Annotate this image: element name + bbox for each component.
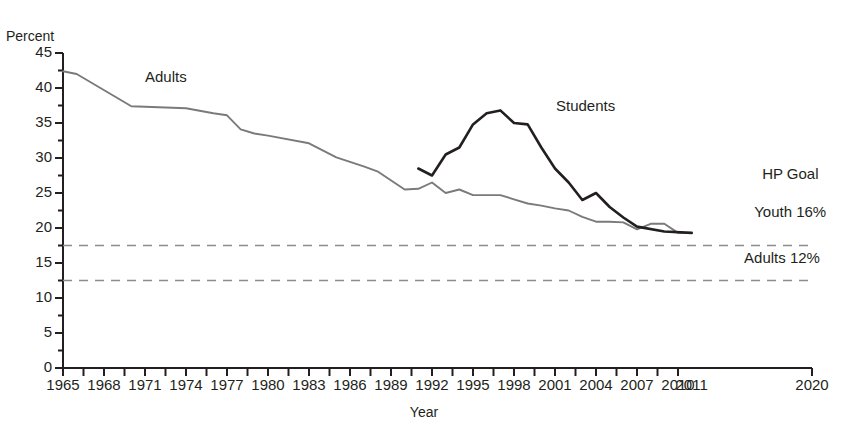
y-tick-label: 45 — [12, 43, 52, 60]
y-tick-label: 5 — [12, 323, 52, 340]
line-chart-canvas — [0, 0, 848, 432]
x-tick-label: 2011 — [668, 376, 716, 393]
y-tick-label: 10 — [12, 288, 52, 305]
y-tick-label: 35 — [12, 113, 52, 130]
x-axis-title: Year — [0, 404, 848, 420]
series-label-students: Students — [556, 97, 615, 114]
y-tick-label: 30 — [12, 148, 52, 165]
y-tick-label: 15 — [12, 253, 52, 270]
y-tick-label: 0 — [12, 358, 52, 375]
hp-goal-line-1: HP Goal — [762, 165, 818, 182]
annotation-adults-goal: Adults 12% — [722, 248, 842, 267]
y-tick-label: 40 — [12, 78, 52, 95]
chart-container: Percent Year Adults Students HP Goal You… — [0, 0, 848, 432]
x-tick-label: 2020 — [788, 376, 836, 393]
y-tick-label: 25 — [12, 183, 52, 200]
series-label-adults: Adults — [145, 68, 187, 85]
y-tick-label: 20 — [12, 218, 52, 235]
y-axis-title: Percent — [6, 28, 96, 44]
hp-goal-line-2: Youth 16% — [754, 203, 826, 220]
annotation-hp-goal-youth: HP Goal Youth 16% — [722, 145, 842, 240]
